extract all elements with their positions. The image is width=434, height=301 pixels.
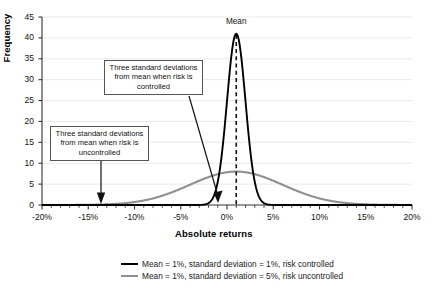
y-tick-label: 30 (12, 74, 34, 84)
y-tick-label: 5 (12, 179, 34, 189)
legend-swatch-controlled (121, 263, 138, 265)
legend-label-controlled: Mean = 1%, standard deviation = 1%, risk… (142, 258, 334, 270)
legend-item-controlled: Mean = 1%, standard deviation = 1%, risk… (121, 258, 343, 270)
chart-container: Frequency Absolute returns 0510152025303… (0, 0, 434, 301)
x-tick-label: -20% (22, 212, 62, 222)
y-tick-label: 35 (12, 53, 34, 63)
y-tick-label: 15 (12, 137, 34, 147)
x-tick-label: 10% (300, 212, 340, 222)
mean-annotation-label: Mean (211, 17, 261, 26)
series-line-uncontrolled (42, 172, 412, 205)
chart-legend: Mean = 1%, standard deviation = 1%, risk… (121, 258, 343, 282)
arrow-uncontrolled (97, 157, 105, 204)
legend-swatch-uncontrolled (121, 275, 138, 277)
x-tick-label: 20% (392, 212, 432, 222)
y-tick-label: 10 (12, 158, 34, 168)
callout-three-sd-controlled: Three standard deviations from mean when… (104, 60, 203, 95)
x-tick-label: 15% (346, 212, 386, 222)
x-tick-label: 5% (253, 212, 293, 222)
y-tick-label: 40 (12, 32, 34, 42)
x-tick-label: -15% (68, 212, 108, 222)
x-tick-label: 0% (207, 212, 247, 222)
y-tick-label: 0 (12, 200, 34, 210)
y-tick-label: 25 (12, 95, 34, 105)
x-axis-title: Absolute returns (175, 228, 253, 239)
series-line-controlled (42, 34, 412, 205)
y-tick-label: 20 (12, 116, 34, 126)
y-axis-title: Frequency (1, 0, 12, 88)
x-tick-label: -10% (115, 212, 155, 222)
legend-item-uncontrolled: Mean = 1%, standard deviation = 5%, risk… (121, 270, 343, 282)
callout-three-sd-uncontrolled: Three standard deviations from mean when… (50, 126, 149, 161)
legend-label-uncontrolled: Mean = 1%, standard deviation = 5%, risk… (142, 270, 343, 282)
y-tick-label: 45 (12, 12, 34, 22)
x-tick-label: -5% (161, 212, 201, 222)
